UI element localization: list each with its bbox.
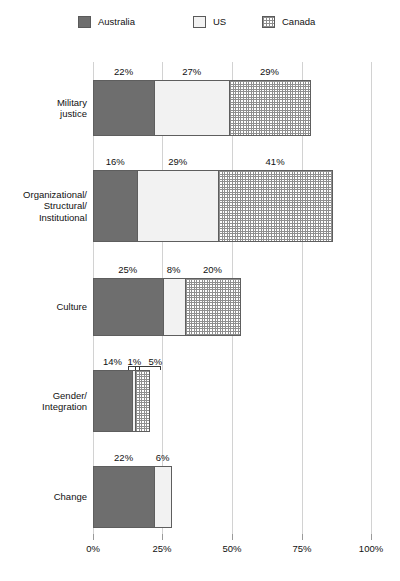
segment-value-label: 22% <box>114 66 133 77</box>
bar-segment-australia <box>93 170 138 242</box>
segment-value-label: 8% <box>167 264 181 275</box>
category-label-line: Institutional <box>23 212 87 224</box>
segment-value-label: 29% <box>168 156 187 167</box>
bar-rows: Militaryjustice22%27%29%Organizational/S… <box>93 62 372 534</box>
category-label-line: Change <box>54 491 87 503</box>
bar-segment-australia <box>93 80 155 136</box>
bar-row: Militaryjustice22%27%29% <box>93 62 372 136</box>
value-label-leader-line <box>135 366 162 370</box>
legend-label-us: US <box>213 17 226 27</box>
segment-value-label: 20% <box>203 264 222 275</box>
legend-item-us: US <box>193 16 226 28</box>
bar-segment-australia <box>93 278 164 336</box>
x-tick-100 <box>371 534 372 540</box>
bar-segment-australia <box>93 370 133 432</box>
legend-label-canada: Canada <box>282 17 315 27</box>
x-tick-0 <box>93 534 94 540</box>
bar-segment-canada <box>229 80 311 136</box>
segment-value-label: 27% <box>182 66 201 77</box>
x-axis-label-0: 0% <box>86 543 100 554</box>
x-axis: 0% 25% 50% 75% 100% <box>93 534 372 564</box>
stacked-bar <box>93 170 333 242</box>
bar-segment-canada <box>185 278 242 336</box>
bar-segment-us <box>154 80 230 136</box>
segment-value-label: 41% <box>266 156 285 167</box>
segment-value-label: 16% <box>106 156 125 167</box>
category-label-line: Organizational/ <box>23 189 87 201</box>
bar-row: Culture25%8%20% <box>93 260 372 336</box>
category-label: Change <box>54 491 87 503</box>
x-axis-label-100: 100% <box>359 543 383 554</box>
category-label-line: Culture <box>56 301 87 313</box>
category-label-line: Military <box>57 97 87 109</box>
stacked-bar-chart: Australia US Canada Militaryjustice22%27… <box>0 0 400 581</box>
category-label-line: Gender/ <box>42 390 87 402</box>
legend-label-australia: Australia <box>98 17 135 27</box>
legend-swatch-canada-icon <box>262 16 275 28</box>
legend-item-canada: Canada <box>262 16 315 28</box>
category-label: Organizational/Structural/Institutional <box>23 189 87 224</box>
category-label-line: Integration <box>42 401 87 413</box>
segment-value-label: 14% <box>103 356 122 367</box>
bar-segment-us <box>154 466 172 528</box>
bar-row: Organizational/Structural/Institutional1… <box>93 152 372 242</box>
category-label: Culture <box>56 301 87 313</box>
segment-value-label: 25% <box>118 264 137 275</box>
bar-row: Gender/Integration14%1%5% <box>93 352 372 432</box>
segment-value-label: 6% <box>156 452 170 463</box>
bar-segment-us <box>163 278 186 336</box>
category-label: Militaryjustice <box>57 97 87 120</box>
stacked-bar <box>93 80 311 136</box>
category-label: Gender/Integration <box>42 390 87 413</box>
legend-item-australia: Australia <box>78 16 135 28</box>
x-axis-label-25: 25% <box>152 543 171 554</box>
x-tick-25 <box>162 534 163 540</box>
x-tick-75 <box>302 534 303 540</box>
plot-area: Militaryjustice22%27%29%Organizational/S… <box>93 62 372 534</box>
legend-swatch-us-icon <box>193 16 206 28</box>
stacked-bar <box>93 370 150 432</box>
stacked-bar <box>93 466 172 528</box>
chart-legend: Australia US Canada <box>0 14 400 34</box>
bar-segment-us <box>137 170 219 242</box>
category-label-line: justice <box>57 108 87 120</box>
segment-value-label: 29% <box>260 66 279 77</box>
legend-swatch-australia-icon <box>78 16 91 28</box>
segment-value-label: 22% <box>114 452 133 463</box>
x-tick-50 <box>232 534 233 540</box>
bar-segment-canada <box>218 170 333 242</box>
x-axis-label-75: 75% <box>292 543 311 554</box>
bar-row: Change22%6% <box>93 448 372 528</box>
stacked-bar <box>93 278 241 336</box>
x-axis-label-50: 50% <box>222 543 241 554</box>
bar-segment-australia <box>93 466 155 528</box>
bar-segment-canada <box>135 370 150 432</box>
category-label-line: Structural/ <box>23 200 87 212</box>
